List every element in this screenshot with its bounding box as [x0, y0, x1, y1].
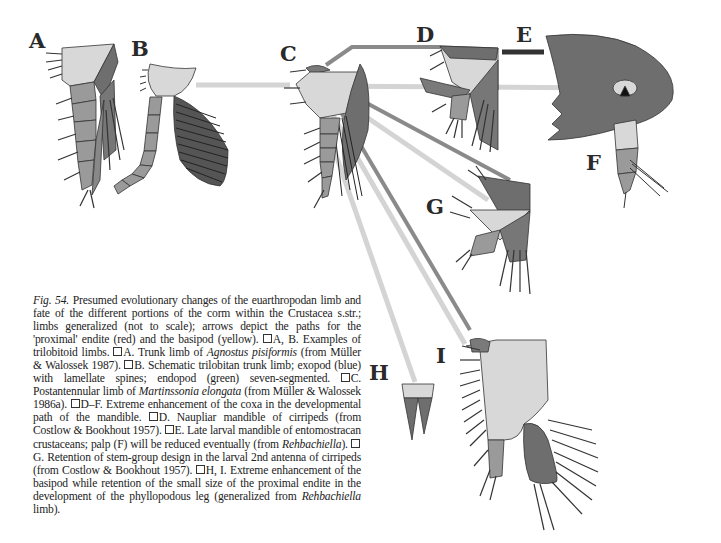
panel-label-c: C — [280, 43, 297, 64]
caption-c-species: Martinssonia elongata — [139, 385, 241, 398]
box-bullet-icon — [71, 399, 80, 408]
limb-f-palp — [614, 120, 668, 208]
panel-label-d: D — [416, 24, 434, 45]
panel-label-h: H — [369, 362, 389, 383]
box-bullet-icon — [149, 412, 158, 421]
box-bullet-icon — [196, 465, 205, 474]
caption-e-post: ). — [341, 438, 351, 451]
box-bullet-icon — [165, 425, 174, 434]
caption-a-species: Agnostus pisiformis — [207, 346, 297, 359]
caption-a-pre: A. Trunk limb of — [123, 346, 207, 359]
limb-c-martinssonia — [284, 64, 369, 208]
limb-a-agnostus — [46, 44, 124, 208]
box-bullet-icon — [341, 373, 350, 382]
box-bullet-icon — [124, 360, 133, 369]
caption-e-genus: Rehbachiella — [282, 438, 341, 451]
figure-reference: Fig. 54. — [33, 294, 69, 307]
caption-h-i-genus: Rehbachiella — [302, 490, 361, 503]
limb-i-phyllopodous-leg — [460, 338, 598, 530]
panel-label-g: G — [426, 196, 444, 217]
box-bullet-icon — [263, 334, 272, 343]
box-bullet-icon — [113, 347, 122, 356]
limb-e-larval-mandible — [546, 34, 673, 140]
limb-h-small-endite — [402, 384, 434, 440]
box-bullet-icon — [351, 439, 360, 448]
figure-caption: Fig. 54. Presumed evolutionary changes o… — [33, 294, 361, 516]
panel-label-i: I — [436, 345, 446, 366]
panel-label-e: E — [516, 24, 532, 45]
panel-label-f: F — [586, 152, 601, 173]
caption-h-i-post: limb). — [33, 503, 60, 516]
panel-label-b: B — [131, 38, 149, 59]
panel-label-a: A — [29, 30, 45, 51]
